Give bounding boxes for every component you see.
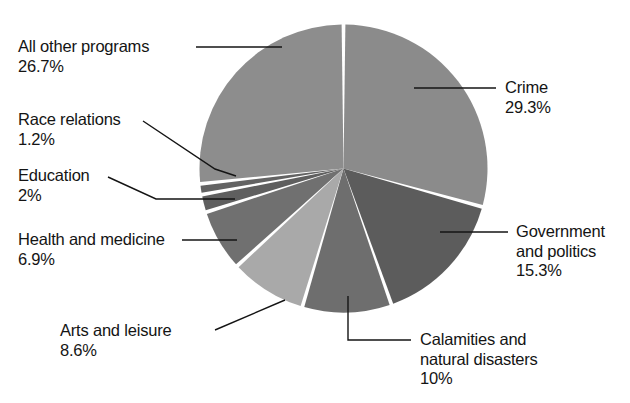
label-calamities: Calamities and natural disasters 10% [420, 330, 538, 389]
label-crime: Crime 29.3% [505, 78, 551, 117]
label-calamities-title: Calamities and [420, 330, 526, 348]
label-education-title: Education [18, 166, 90, 184]
label-race-relations-percent: 1.2% [18, 130, 121, 150]
label-government-and-politics-title2: and politics [516, 242, 605, 262]
label-health-and-medicine-percent: 6.9% [18, 250, 165, 270]
label-all-other-programs: All other programs 26.7% [18, 37, 149, 76]
label-all-other-programs-title: All other programs [18, 37, 149, 55]
pie-chart-figure: All other programs 26.7% Race relations … [0, 0, 630, 403]
label-government-and-politics: Government and politics 15.3% [516, 222, 605, 281]
label-arts-and-leisure-percent: 8.6% [60, 341, 171, 361]
label-all-other-programs-percent: 26.7% [18, 57, 149, 77]
leader-line-arts-and-leisure [215, 300, 285, 330]
label-crime-percent: 29.3% [505, 98, 551, 118]
pie-slice-all-other-programs[interactable] [200, 25, 344, 182]
label-calamities-title2: natural disasters [420, 350, 538, 370]
pie-slice-group [200, 25, 488, 313]
label-education: Education 2% [18, 166, 90, 205]
label-calamities-percent: 10% [420, 369, 538, 389]
label-race-relations: Race relations 1.2% [18, 110, 121, 149]
label-arts-and-leisure-title: Arts and leisure [60, 321, 171, 339]
label-health-and-medicine-title: Health and medicine [18, 230, 165, 248]
label-government-and-politics-title: Government [516, 222, 605, 240]
label-arts-and-leisure: Arts and leisure 8.6% [60, 321, 171, 360]
label-race-relations-title: Race relations [18, 110, 121, 128]
label-education-percent: 2% [18, 186, 90, 206]
label-government-and-politics-percent: 15.3% [516, 261, 605, 281]
label-crime-title: Crime [505, 78, 548, 96]
label-health-and-medicine: Health and medicine 6.9% [18, 230, 165, 269]
